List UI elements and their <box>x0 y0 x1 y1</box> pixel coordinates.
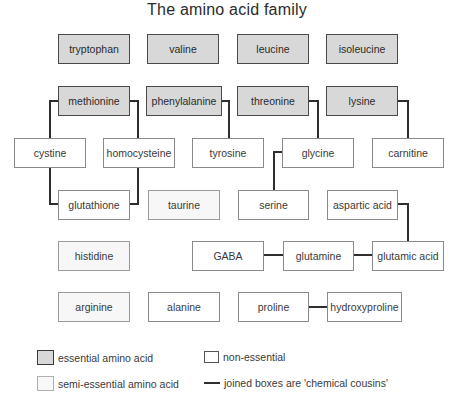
box-hydroxyproline: hydroxyproline <box>327 292 402 322</box>
box-carnitine: carnitine <box>372 138 444 168</box>
box-threonine: threonine <box>237 86 309 116</box>
box-phenylalanine: phenylalanine <box>146 86 222 116</box>
box-taurine: taurine <box>148 190 220 220</box>
connector-methionine-cystine <box>49 100 51 138</box>
box-aspartic-acid: aspartic acid <box>327 190 398 220</box>
legend-semi-essential: semi-essential amino acid <box>37 376 179 391</box>
legend-essential-label: essential amino acid <box>58 352 153 364</box>
connector-homocysteine-glutathione <box>137 167 139 204</box>
box-homocysteine: homocysteine <box>103 138 175 168</box>
connector-proline-hydroxyproline <box>308 306 328 308</box>
box-proline: proline <box>238 292 309 322</box>
connector-glutamine-glutamic <box>353 254 373 256</box>
connector-methionine-homocysteine <box>137 100 139 138</box>
connector-homocysteine-glutathione <box>129 203 139 205</box>
box-leucine: leucine <box>237 34 309 64</box>
box-isoleucine: isoleucine <box>326 34 398 64</box>
box-glutathione: glutathione <box>58 190 130 220</box>
connector-line-icon <box>204 382 220 384</box>
box-tryptophan: tryptophan <box>58 34 130 64</box>
connector-gaba-glutamine <box>263 254 284 256</box>
non-essential-swatch-icon <box>204 351 219 363</box>
legend-joined-label: joined boxes are 'chemical cousins' <box>224 377 388 389</box>
box-glutamine: glutamine <box>283 241 354 271</box>
box-methionine: methionine <box>58 86 130 116</box>
connector-lysine-carnitine <box>407 100 409 138</box>
box-glycine: glycine <box>282 138 354 168</box>
legend-essential: essential amino acid <box>37 350 153 365</box>
diagram-title: The amino acid family <box>0 1 454 19</box>
box-valine: valine <box>147 34 219 64</box>
connector-threonine-glycine <box>317 100 319 138</box>
box-arginine: arginine <box>58 292 130 322</box>
box-glutamic-acid: glutamic acid <box>372 241 444 271</box>
box-lysine: lysine <box>326 86 398 116</box>
legend-joined: joined boxes are 'chemical cousins' <box>204 377 388 389</box>
box-serine: serine <box>238 190 309 220</box>
legend-semi-essential-label: semi-essential amino acid <box>58 378 179 390</box>
box-tyrosine: tyrosine <box>192 138 264 168</box>
legend-non-essential: non-essential <box>204 351 285 363</box>
box-gaba: GABA <box>192 241 264 271</box>
semi-essential-swatch-icon <box>37 376 54 391</box>
connector-aspartic-glutamic <box>407 203 409 241</box>
connector-glycine-serine <box>273 151 275 190</box>
box-histidine: histidine <box>58 241 130 271</box>
connector-cystine-glutathione <box>49 167 51 204</box>
connector-phenylalanine-tyrosine <box>228 100 230 138</box>
box-alanine: alanine <box>148 292 220 322</box>
legend-non-essential-label: non-essential <box>223 351 285 363</box>
essential-swatch-icon <box>37 350 54 365</box>
box-cystine: cystine <box>14 138 86 168</box>
